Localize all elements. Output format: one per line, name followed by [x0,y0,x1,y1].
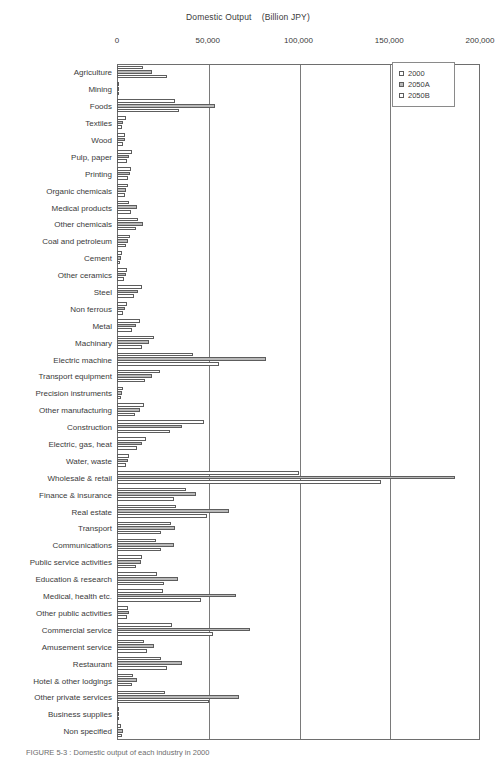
bar-row: Other private services [117,689,480,706]
bar-2000 [117,522,171,526]
bar-row: Non ferrous [117,300,480,317]
category-label: Precision instruments [36,389,112,398]
bar-row: Textiles [117,115,480,132]
bar-2050A [117,661,182,665]
bar-2000 [117,285,142,289]
bar-2050A [117,205,137,209]
bar-2050B [117,446,137,450]
bar-2050A [117,492,196,496]
bar-2050A [117,155,129,159]
category-label: Transport equipment [38,372,112,381]
bar-row: Metal [117,317,480,334]
bar-2000 [117,674,133,678]
bar-2000 [117,555,142,559]
bar-2050B [117,700,209,704]
bar-2050A [117,357,266,361]
bar-2050A [117,459,128,463]
legend-swatch-icon [399,71,404,76]
bar-2050B [117,531,161,535]
chart-title: Domestic Output (Billion JPY) [0,12,496,22]
category-label: Restaurant [73,659,112,668]
category-label: Electric, gas, heat [48,440,112,449]
category-label: Construction [67,423,112,432]
bar-row: Communications [117,537,480,554]
bar-row: Coal and petroleum [117,233,480,250]
category-label: Amusement service [42,642,112,651]
bar-2050A [117,594,236,598]
bar-2000 [117,353,193,357]
bar-2050B [117,294,134,298]
bar-2000 [117,116,126,120]
category-label: Education & research [36,575,113,584]
bar-2050B [117,311,123,315]
bar-2050B [117,497,174,501]
figure-caption: FIGURE 5-3 : Domestic output of each ind… [26,748,486,757]
category-label: Other chemicals [54,220,112,229]
category-label: Medical, health etc. [43,592,112,601]
category-label: Pulp, paper [71,152,112,161]
bar-row: Organic chemicals [117,182,480,199]
bar-2050A [117,408,140,412]
category-label: Printing [85,169,112,178]
bar-2050A [117,222,143,226]
bar-row: Commercial service [117,621,480,638]
bar-2000 [117,724,121,728]
legend-item[interactable]: 2000 [399,68,448,79]
bar-2050B [117,75,167,79]
bar-row: Non specified [117,723,480,740]
category-label: Other public activities [36,608,112,617]
bar-2000 [117,707,119,711]
category-label: Public service activities [30,558,112,567]
bar-2050B [117,717,119,721]
bar-row: Other ceramics [117,267,480,284]
bar-2050A [117,121,123,125]
bar-row: Transport [117,520,480,537]
bar-2050A [117,172,130,176]
legend: 20002050A2050B [392,62,455,107]
bar-2050A [117,712,119,716]
bar-row: Water, waste [117,452,480,469]
bar-2050B [117,649,147,653]
bar-2050B [117,734,122,738]
bar-2050B [117,632,213,636]
category-label: Non ferrous [70,304,112,313]
bar-2050A [117,273,126,277]
bar-2000 [117,336,154,340]
legend-swatch-icon [399,82,404,87]
bar-2050A [117,425,182,429]
bar-2050A [117,729,123,733]
bar-row: Public service activities [117,554,480,571]
bar-2050A [117,577,178,581]
bar-2050B [117,261,120,265]
bar-2050A [117,442,142,446]
bar-2050B [117,159,127,163]
category-label: Machinary [75,338,112,347]
category-label: Foods [90,102,112,111]
x-tick-label: 150,000 [375,36,404,45]
bar-2050B [117,615,127,619]
legend-item[interactable]: 2050B [399,90,448,101]
bar-2050A [117,87,119,91]
category-label: Coal and petroleum [42,237,112,246]
category-label: Water, waste [66,456,112,465]
bar-2050A [117,104,215,108]
category-label: Wholesale & retail [48,473,112,482]
bar-2050A [117,138,125,142]
bar-2000 [117,184,128,188]
bar-2050A [117,678,137,682]
legend-item[interactable]: 2050A [399,79,448,90]
bar-2050B [117,430,170,434]
category-label: Communications [52,541,112,550]
bar-2000 [117,606,128,610]
bar-2000 [117,539,156,543]
x-tick-label: 0 [115,36,119,45]
bar-row: Precision instruments [117,385,480,402]
bar-2050A [117,374,152,378]
category-label: Medical products [52,203,112,212]
legend-label: 2000 [408,69,425,78]
bar-row: Education & research [117,571,480,588]
bar-row: Pulp, paper [117,148,480,165]
bar-2050B [117,582,164,586]
bar-2000 [117,66,143,70]
bar-2050B [117,328,132,332]
